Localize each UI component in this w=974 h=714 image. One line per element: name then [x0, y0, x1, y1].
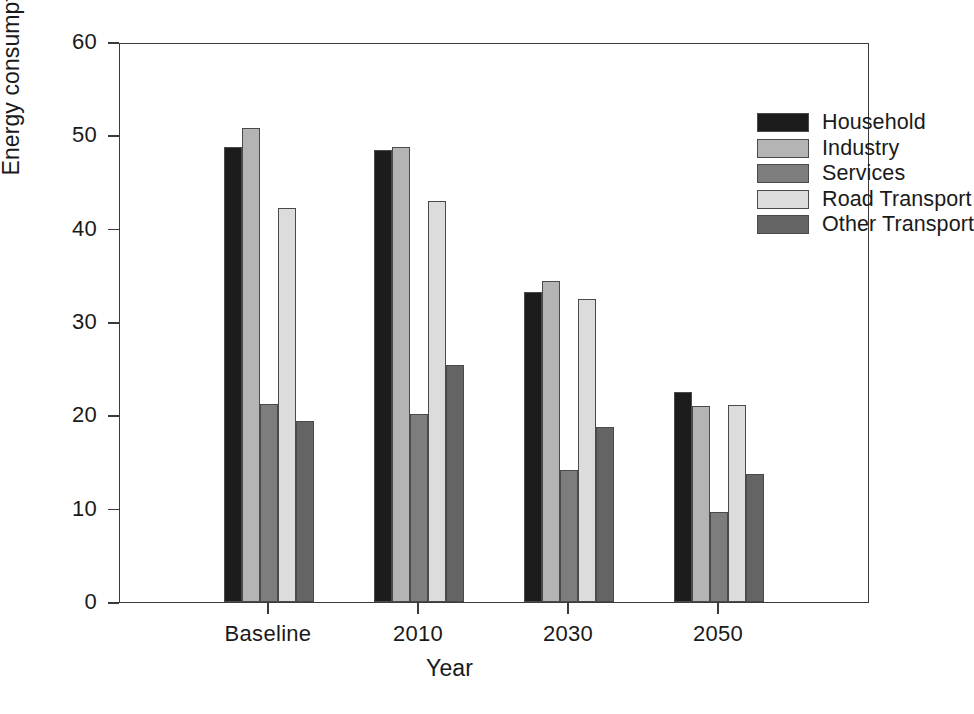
bar	[524, 292, 541, 602]
y-axis-tick-mark	[108, 322, 119, 324]
legend-item: Services	[757, 161, 974, 187]
x-axis-tick-label: 2050	[638, 621, 798, 647]
x-axis-tick-mark	[267, 603, 269, 614]
bar	[392, 147, 409, 602]
x-axis-tick-label: 2010	[338, 621, 498, 647]
legend-swatch	[757, 190, 809, 209]
y-axis-tick-mark	[108, 229, 119, 231]
legend-label: Household	[822, 110, 926, 135]
legend-swatch	[757, 113, 809, 132]
legend-label: Industry	[822, 136, 899, 161]
bar	[710, 512, 727, 602]
y-axis-tick-label: 40	[72, 216, 97, 242]
y-axis-tick-mark	[108, 135, 119, 137]
legend-label: Services	[822, 161, 905, 186]
x-axis-tick-label: 2030	[488, 621, 648, 647]
y-axis-tick-mark	[108, 602, 119, 604]
bar	[446, 365, 463, 602]
x-axis-tick-mark	[717, 603, 719, 614]
bar	[242, 128, 259, 602]
bar	[410, 414, 427, 602]
y-axis-tick-mark	[108, 415, 119, 417]
legend-swatch	[757, 215, 809, 234]
y-axis-tick-label: 50	[72, 122, 97, 148]
bar	[746, 474, 763, 602]
y-axis-tick-label: 20	[72, 402, 97, 428]
legend-swatch	[757, 139, 809, 158]
bar	[224, 147, 241, 602]
legend-item: Road Transport	[757, 187, 974, 213]
legend-item: Household	[757, 110, 974, 136]
y-axis-tick-mark	[108, 42, 119, 44]
y-axis-tick-mark	[108, 509, 119, 511]
bar	[542, 281, 559, 602]
legend-swatch	[757, 164, 809, 183]
bar	[278, 208, 295, 602]
x-axis-tick-label: Baseline	[188, 621, 348, 647]
bar	[296, 421, 313, 602]
x-axis-title: Year	[0, 655, 899, 682]
bar	[728, 405, 745, 602]
bar	[428, 201, 445, 602]
bar	[374, 150, 391, 602]
bar	[692, 406, 709, 602]
plot-area: HouseholdIndustryServicesRoad TransportO…	[119, 43, 869, 603]
y-axis-tick-label: 30	[72, 309, 97, 335]
chart-legend: HouseholdIndustryServicesRoad TransportO…	[757, 110, 974, 238]
bar	[596, 427, 613, 602]
legend-label: Other Transport	[822, 212, 974, 237]
bar	[560, 470, 577, 602]
legend-item: Industry	[757, 136, 974, 162]
bar	[260, 404, 277, 602]
y-axis-tick-label: 10	[72, 496, 97, 522]
y-axis-title: Energy consumption (Mtoe)	[0, 0, 25, 198]
bar	[674, 392, 691, 602]
x-axis-tick-mark	[417, 603, 419, 614]
legend-item: Other Transport	[757, 212, 974, 238]
legend-label: Road Transport	[822, 187, 972, 212]
x-axis-tick-mark	[567, 603, 569, 614]
bar	[578, 299, 595, 602]
y-axis-tick-label: 60	[72, 29, 97, 55]
y-axis-tick-label: 0	[84, 589, 97, 615]
